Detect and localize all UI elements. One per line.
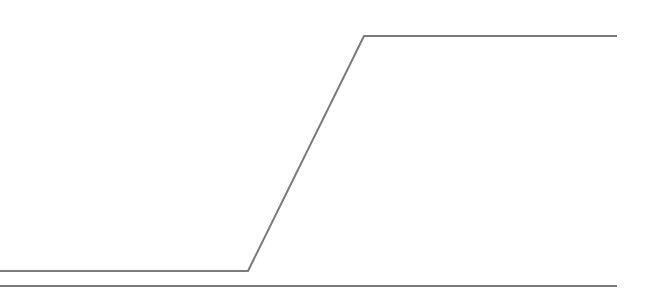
line-chart — [0, 0, 659, 294]
step-line — [0, 36, 617, 271]
